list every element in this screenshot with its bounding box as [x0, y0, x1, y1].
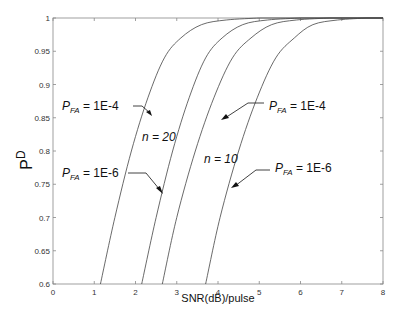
x-tick-label: 8	[381, 288, 386, 297]
annotation-n10-label: n = 10	[204, 152, 238, 166]
y-tick-label: 0.75	[34, 180, 50, 189]
x-tick-label: 2	[133, 288, 138, 297]
y-tick-label: 0.65	[34, 247, 50, 256]
annotation-n10-pfa-1e6: PFA = 1E-6	[231, 161, 332, 188]
plot-frame	[53, 18, 383, 284]
x-tick-label: 1	[92, 288, 97, 297]
curves	[100, 18, 383, 284]
svg-text:n = 10: n = 10	[204, 152, 238, 166]
svg-text:PFA = 1E-6: PFA = 1E-6	[275, 161, 332, 177]
y-tick-label: 0.6	[39, 280, 51, 289]
annotation-n20-pfa-1e6: PFA = 1E-6	[62, 166, 163, 194]
curve-series-1	[100, 18, 383, 284]
svg-text:PD: PD	[14, 150, 35, 170]
x-tick-label: 6	[298, 288, 303, 297]
y-tick-label: 0.7	[39, 214, 51, 223]
annotation-n20-pfa-1e4: PFA = 1E-4	[62, 99, 152, 116]
y-axis-label: PD	[14, 150, 35, 170]
x-tick-label: 5	[257, 288, 262, 297]
y-tick-label: 1	[46, 14, 51, 23]
y-tick-label: 0.95	[34, 47, 50, 56]
x-tick-label: 3	[175, 288, 180, 297]
svg-text:PFA = 1E-4: PFA = 1E-4	[269, 99, 326, 115]
x-tick-label: 7	[340, 288, 345, 297]
svg-text:n = 20: n = 20	[142, 130, 176, 144]
y-tick-label: 0.8	[39, 147, 51, 156]
svg-text:PFA = 1E-4: PFA = 1E-4	[62, 99, 119, 115]
x-axis-label: SNR(dB)/pulse	[181, 292, 254, 304]
curve-series-3	[162, 18, 383, 284]
y-tick-label: 0.9	[39, 81, 51, 90]
annotation-n20-label: n = 20	[142, 130, 176, 144]
svg-text:PFA = 1E-6: PFA = 1E-6	[62, 166, 119, 182]
x-tick-label: 0	[51, 288, 56, 297]
annotation-n10-pfa-1e4: PFA = 1E-4	[221, 99, 326, 120]
curve-series-2	[142, 18, 383, 284]
pd-vs-snr-chart: 0123456780.60.650.70.750.80.850.90.951 P…	[0, 0, 398, 320]
y-tick-label: 0.85	[34, 114, 50, 123]
